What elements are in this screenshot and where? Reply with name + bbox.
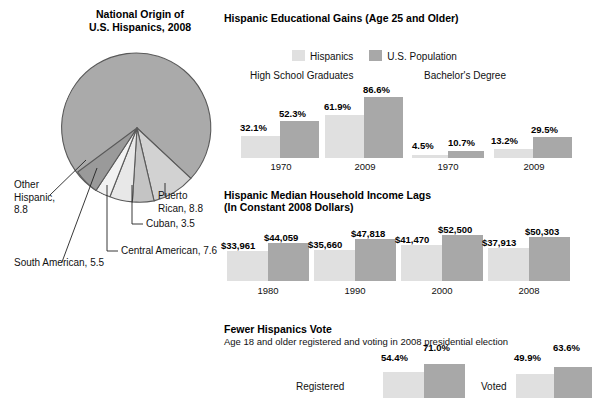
bar-value-hs-1970-hispanics: 32.1%: [240, 122, 267, 133]
bar-value-income-1980-hispanics: $33,961: [221, 240, 255, 251]
bar-value-ba-2009-hispanics: 13.2%: [491, 135, 518, 146]
bar-group-hs-2009: 61.9% 86.6%: [325, 88, 405, 158]
bar-group-income-1990: $35,660$47,818: [314, 233, 396, 281]
bar-value-income-1980-us-population: $44,059: [264, 232, 298, 243]
axis-label-hs-2009: 2009: [325, 161, 405, 172]
bar-income-2000-us-population: [442, 235, 483, 281]
bar-income-2008-us-population: [529, 237, 570, 281]
pie-label-other-hispanic-l1: Other: [14, 179, 84, 192]
bar-value-ba-1970-us-population: 10.7%: [448, 137, 475, 148]
legend-label-hispanics: Hispanics: [310, 51, 353, 62]
pie-label-south-american: South American, 5.5: [14, 257, 104, 270]
bar-group-ba-2009: 13.2% 29.5%: [494, 88, 574, 158]
pie-label-other-hispanic-l3: 8.8: [14, 204, 84, 217]
legend-swatch-hispanics: [292, 50, 305, 61]
bar-value-hs-2009-us-population: 86.6%: [363, 84, 390, 95]
income-subtitle: (In Constant 2008 Dollars): [224, 201, 354, 214]
bar-group-voted: 49.9% 63.6%: [516, 364, 592, 398]
bar-group-income-2008: $37,913$50,303: [488, 233, 570, 281]
bar-ba-2009-us-population: [533, 137, 572, 158]
legend-swatch-us-population: [369, 50, 382, 61]
pie-title-line1: National Origin of: [70, 8, 210, 21]
bar-income-1990-us-population: [355, 239, 396, 281]
bar-value-income-1990-us-population: $47,818: [351, 228, 385, 239]
axis-label-income-1990: 1990: [314, 285, 396, 296]
axis-label-ba-1970: 1970: [412, 161, 484, 172]
bar-value-ba-2009-us-population: 29.5%: [531, 124, 558, 135]
bar-value-income-2008-hispanics: $37,913: [482, 237, 516, 248]
bar-value-registered-hispanics: 54.4%: [381, 352, 408, 363]
pie-label-central-american: Central American, 7.6: [121, 245, 217, 258]
bar-voted-hispanics: [516, 374, 554, 398]
education-legend: HispanicsU.S. Population: [292, 50, 473, 62]
bar-hs-2009-hispanics: [325, 115, 364, 158]
bar-income-2008-hispanics: [488, 248, 529, 281]
bar-group-registered: 54.4% 71.0%: [383, 364, 465, 398]
bar-group-ba-1970: 4.5% 10.7%: [412, 88, 484, 158]
panel-label-bachelors-degree: Bachelor's Degree: [424, 70, 506, 81]
income-title: Hispanic Median Household Income Lags: [224, 189, 431, 202]
bar-registered-us-population: [424, 364, 465, 398]
vote-subtitle: Age 18 and older registered and voting i…: [224, 336, 508, 348]
bar-hs-2009-us-population: [364, 97, 403, 158]
pie-label-other-hispanic: Other Hispanic, 8.8: [14, 179, 84, 217]
axis-label-ba-2009: 2009: [494, 161, 574, 172]
bar-income-1980-hispanics: [227, 251, 268, 281]
axis-label-income-2008: 2008: [488, 285, 570, 296]
bar-group-income-2000: $41,470$52,500: [401, 233, 483, 281]
axis-label-income-2000: 2000: [401, 285, 483, 296]
bar-ba-1970-us-population: [448, 151, 484, 159]
pie-label-puerto-rican-l2: Rican, 8.8: [158, 203, 203, 216]
bar-voted-us-population: [554, 367, 592, 398]
bar-value-voted-us-population: 63.6%: [553, 342, 580, 353]
bar-value-ba-1970-hispanics: 4.5%: [412, 140, 434, 151]
pie-label-puerto-rican-l1: Puerto: [158, 190, 203, 203]
bar-value-income-1990-hispanics: $35,660: [308, 239, 342, 250]
bar-value-registered-us-population: 71.0%: [423, 342, 450, 353]
bar-value-voted-hispanics: 49.9%: [514, 352, 541, 363]
bar-income-2000-hispanics: [401, 245, 442, 281]
bar-hs-1970-hispanics: [241, 136, 280, 159]
bar-value-hs-1970-us-population: 52.3%: [279, 108, 306, 119]
bar-income-1980-us-population: [268, 243, 309, 281]
bar-value-hs-2009-hispanics: 61.9%: [324, 101, 351, 112]
bar-value-income-2000-hispanics: $41,470: [395, 234, 429, 245]
pie-label-other-hispanic-l2: Hispanic,: [14, 192, 84, 205]
bar-ba-1970-hispanics: [412, 155, 448, 158]
bar-ba-2009-hispanics: [494, 149, 533, 158]
pie-title: National Origin of U.S. Hispanics, 2008: [70, 8, 210, 33]
axis-label-hs-1970: 1970: [241, 161, 321, 172]
bar-registered-hispanics: [383, 372, 424, 398]
panel-label-high-school-graduates: High School Graduates: [250, 70, 353, 81]
pie-title-line2: U.S. Hispanics, 2008: [70, 21, 210, 34]
pie-label-cuban: Cuban, 3.5: [146, 218, 195, 231]
bar-hs-1970-us-population: [280, 121, 319, 158]
bar-value-income-2008-us-population: $50,303: [525, 226, 559, 237]
bar-value-income-2000-us-population: $52,500: [438, 224, 472, 235]
axis-label-income-1980: 1980: [227, 285, 309, 296]
legend-label-us-population: U.S. Population: [387, 51, 457, 62]
bar-group-income-1980: $33,961$44,059: [227, 233, 309, 281]
education-title: Hispanic Educational Gains (Age 25 and O…: [224, 12, 459, 25]
vote-title: Fewer Hispanics Vote: [224, 323, 332, 336]
bar-income-1990-hispanics: [314, 250, 355, 281]
bar-group-hs-1970: 32.1% 52.3%: [241, 88, 321, 158]
pie-label-puerto-rican: Puerto Rican, 8.8: [158, 190, 203, 215]
vote-label-registered: Registered: [296, 381, 344, 392]
vote-label-voted: Voted: [481, 381, 507, 392]
